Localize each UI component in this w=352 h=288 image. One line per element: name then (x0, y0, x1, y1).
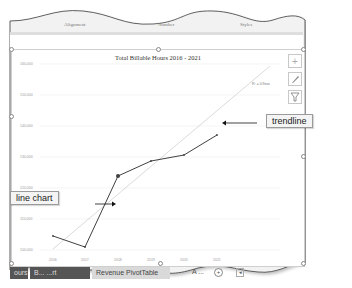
y-tick: 140,000 (20, 124, 33, 128)
scroll-left-button[interactable]: ◂ (236, 268, 244, 277)
resize-handle-left[interactable] (9, 114, 14, 119)
callout-line-chart: line chart (10, 191, 59, 205)
x-tick: 2019 (147, 258, 155, 262)
callout-trendline: trendline (266, 114, 313, 128)
chart-elements-button[interactable]: + (288, 54, 302, 68)
more-sheets-button[interactable]: A ... (192, 268, 204, 275)
resize-handle-top-left[interactable] (9, 47, 14, 52)
add-sheet-button[interactable]: + (214, 268, 223, 277)
resize-handle-top-right[interactable] (301, 47, 306, 52)
y-tick: 150,000 (20, 93, 33, 97)
ribbon-group-alignment: Alignment (64, 22, 85, 27)
y-tick: 130,000 (20, 155, 33, 159)
r-squared-label: R² = 0.9xxx (252, 82, 270, 86)
y-tick: 120,000 (20, 186, 33, 190)
y-tick: 100,000 (20, 248, 33, 252)
chart-filters-button[interactable] (288, 90, 302, 104)
ribbon-group-number: Number (158, 22, 174, 27)
chart-styles-button[interactable] (288, 72, 302, 86)
plus-icon: + (292, 56, 298, 67)
x-tick: 2017 (81, 258, 89, 262)
filter-icon (290, 92, 300, 102)
chart-area[interactable]: Total Billable Hours 2016 - 2021 (11, 49, 305, 267)
resize-handle-right[interactable] (301, 154, 306, 159)
resize-handle-bottom-right[interactable] (301, 261, 306, 266)
sheet-tab[interactable]: ours (10, 267, 28, 279)
x-tick: 2018 (114, 258, 122, 262)
x-tick: 2021 (213, 258, 221, 262)
data-line (53, 135, 217, 247)
sheet-tab[interactable]: B... ...rt (30, 267, 90, 279)
trendline (53, 66, 270, 249)
resize-handle-top[interactable] (156, 47, 161, 52)
x-tick: 2020 (180, 258, 188, 262)
ribbon-group-styles: Styles (240, 22, 252, 27)
resize-handle-bottom[interactable] (158, 261, 163, 266)
excel-window: Alignment Number Styles Total Billable H… (8, 6, 306, 282)
y-tick: 110,000 (20, 217, 32, 221)
x-tick: 2016 (49, 258, 57, 262)
sheet-tab-revenue-pivottable[interactable]: Revenue PivotTable (92, 267, 170, 279)
sheet-tab-bar: ours B... ...rt Revenue PivotTable A ...… (10, 267, 305, 281)
y-tick: 160,000 (20, 62, 33, 66)
brush-icon (290, 74, 300, 84)
resize-handle-bottom-left[interactable] (9, 261, 14, 266)
